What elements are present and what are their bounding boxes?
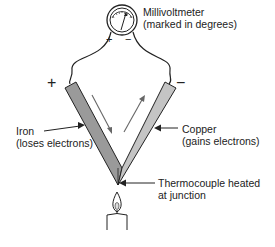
iron-label: Iron (loses electrons) xyxy=(16,125,93,149)
right-minus-sign: − xyxy=(176,75,185,91)
millivoltmeter-icon xyxy=(107,5,137,35)
left-plus-sign: + xyxy=(47,75,56,91)
electron-flow-arrow-up xyxy=(124,98,143,132)
candle-flame-icon xyxy=(107,192,127,230)
meter-plus-terminal: + xyxy=(106,34,112,45)
thermocouple-diagram: Millivoltmeter (marked in degrees) + − +… xyxy=(0,0,275,247)
junction-label: Thermocouple heated at junction xyxy=(158,177,260,201)
copper-label: Copper (gains electrons) xyxy=(182,123,260,147)
meter-minus-terminal: − xyxy=(125,34,131,45)
left-wire xyxy=(70,32,111,84)
meter-label: Millivoltmeter (marked in degrees) xyxy=(143,6,237,30)
copper-bar xyxy=(118,82,176,185)
copper-pointer-arrow-icon xyxy=(154,125,161,132)
right-wire xyxy=(133,32,171,84)
